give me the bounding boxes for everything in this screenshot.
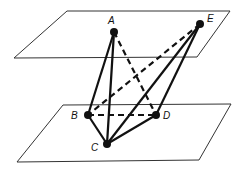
edge-bc bbox=[88, 115, 107, 144]
point-a bbox=[110, 28, 118, 36]
point-e bbox=[196, 20, 204, 28]
edge-ed bbox=[156, 24, 200, 115]
point-label-e: E bbox=[207, 13, 214, 24]
point-c bbox=[103, 140, 111, 148]
point-label-a: A bbox=[107, 15, 115, 26]
upper-plane bbox=[14, 11, 230, 58]
edges bbox=[88, 24, 200, 144]
edge-ec bbox=[107, 24, 200, 144]
point-d bbox=[152, 111, 160, 119]
edge-cd bbox=[107, 115, 156, 144]
point-b bbox=[84, 111, 92, 119]
edge-ad bbox=[114, 32, 156, 115]
planes bbox=[14, 11, 231, 162]
geometry-diagram: AEBDC bbox=[0, 0, 243, 169]
edge-eb bbox=[88, 24, 200, 115]
point-label-c: C bbox=[91, 142, 99, 153]
point-label-b: B bbox=[71, 110, 78, 121]
point-label-d: D bbox=[163, 110, 170, 121]
